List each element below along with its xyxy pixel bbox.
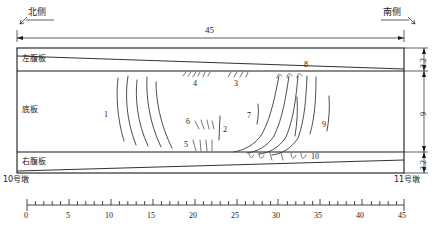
span-length-label: 45 xyxy=(205,26,214,35)
crack-group-1 xyxy=(117,76,172,148)
axis-tick-label-0: 0 xyxy=(24,212,28,220)
region-label-right-web: 右腹板 xyxy=(22,158,46,166)
crack-distribution-diagram: 北侧 南侧 xyxy=(0,0,445,233)
crack-label-2: 2 xyxy=(223,126,227,134)
girder-plan-drawing xyxy=(0,0,445,233)
axis-tick-label-40: 40 xyxy=(356,212,364,220)
crack-label-6: 6 xyxy=(186,118,190,126)
axis-tick-label-35: 35 xyxy=(314,212,322,220)
crack-group-5 xyxy=(193,140,212,151)
axis-tick-label-5: 5 xyxy=(66,212,70,220)
axis-tick-label-25: 25 xyxy=(231,212,239,220)
crack-group-4 xyxy=(183,72,210,77)
crack-label-4: 4 xyxy=(193,80,197,88)
axis-tick-label-20: 20 xyxy=(189,212,197,220)
crack-label-10: 10 xyxy=(311,153,319,161)
crack-group-3 xyxy=(228,72,248,77)
scale-axis xyxy=(27,199,404,211)
dimension-top-web-height: 2.2 xyxy=(420,58,428,68)
crack-label-8: 8 xyxy=(304,61,308,69)
region-label-bottom-slab: 底板 xyxy=(22,106,38,114)
crack-label-9: 9 xyxy=(322,121,326,129)
pier-label-left: 10号墩 xyxy=(3,176,29,184)
crack-label-7: 7 xyxy=(247,112,251,120)
region-label-left-web: 左腹板 xyxy=(22,55,46,63)
crack-label-5: 5 xyxy=(184,141,188,149)
axis-tick-label-15: 15 xyxy=(147,212,155,220)
axis-tick-label-30: 30 xyxy=(272,212,280,220)
dimension-bottom-web-height: 2.2 xyxy=(420,160,428,170)
axis-tick-label-45: 45 xyxy=(398,212,406,220)
crack-group-7 xyxy=(257,104,258,124)
crack-label-3: 3 xyxy=(234,80,238,88)
crack-group-6 xyxy=(195,120,214,129)
crack-label-1: 1 xyxy=(104,111,108,119)
crack-group-2 xyxy=(219,116,220,140)
dimension-slab-width: 9 xyxy=(420,112,428,116)
axis-tick-label-10: 10 xyxy=(105,212,113,220)
pier-label-right: 11号墩 xyxy=(394,176,420,184)
